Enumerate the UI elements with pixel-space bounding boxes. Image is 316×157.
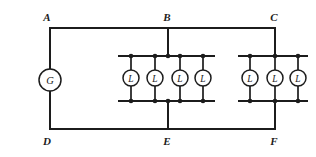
node-label-b: B: [162, 11, 170, 23]
junction-dot-middle-top-4: [201, 54, 206, 59]
junction-dot-middle-bottom-2: [153, 99, 158, 104]
node-label-e: E: [162, 135, 170, 147]
junction-dot-middle-top-2: [153, 54, 158, 59]
junction-dot-middle-bottom-3: [178, 99, 183, 104]
junction-dot-right-top-1: [248, 54, 253, 59]
middle-lamp-4-label: L: [199, 74, 205, 84]
galvanometer-label: G: [46, 75, 54, 86]
middle-lamp-1-label: L: [127, 74, 133, 84]
circuit-diagram-canvas: G L L L L: [0, 0, 316, 157]
junction-dot-right-top-3: [296, 54, 301, 59]
junction-dot-middle-bottom-feed: [166, 99, 171, 104]
circuit-schematic: G L L L L: [0, 0, 316, 157]
junction-dot-middle-bottom-1: [129, 99, 134, 104]
lamp-bank-middle: L L L L: [118, 54, 215, 104]
node-label-c: C: [270, 11, 278, 23]
right-lamp-3-label: L: [294, 74, 300, 84]
middle-lamp-2-label: L: [151, 74, 157, 84]
right-lamp-1-label: L: [246, 74, 252, 84]
junction-dot-middle-top-1: [129, 54, 134, 59]
junction-dot-middle-top-feed: [166, 54, 171, 59]
junction-dot-right-bottom-1: [248, 99, 253, 104]
junction-dot-middle-top-3: [178, 54, 183, 59]
junction-dot-right-bottom-feed: [273, 99, 278, 104]
node-label-d: D: [42, 135, 51, 147]
junction-dot-right-top-feed: [273, 54, 278, 59]
node-label-f: F: [269, 135, 278, 147]
middle-lamp-3-label: L: [176, 74, 182, 84]
lamp-bank-right: L L L: [238, 54, 308, 104]
junction-dot-right-bottom-3: [296, 99, 301, 104]
galvanometer-symbol: G: [39, 69, 61, 91]
right-lamp-2-label: L: [271, 74, 277, 84]
node-label-a: A: [42, 11, 50, 23]
junction-dot-middle-bottom-4: [201, 99, 206, 104]
